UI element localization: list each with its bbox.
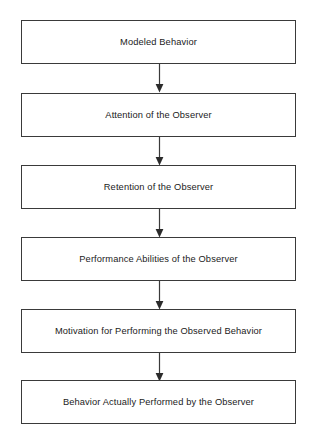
- flowchart-node-label: Behavior Actually Performed by the Obser…: [63, 397, 254, 408]
- flowchart-node-motivation: Motivation for Performing the Observed B…: [21, 309, 296, 353]
- down-arrow-icon: [153, 281, 166, 310]
- flowchart-node-label: Attention of the Observer: [105, 110, 211, 121]
- flowchart-node-performance-abilities: Performance Abilities of the Observer: [21, 237, 296, 281]
- flowchart-node-label: Modeled Behavior: [120, 37, 197, 48]
- flowchart-node-retention: Retention of the Observer: [21, 165, 296, 209]
- flowchart-diagram: Modeled Behavior Attention of the Observ…: [0, 0, 316, 435]
- down-arrow-icon: [153, 209, 166, 238]
- down-arrow-icon: [153, 137, 166, 166]
- flowchart-node-label: Performance Abilities of the Observer: [79, 254, 237, 265]
- flowchart-node-behavior-performed: Behavior Actually Performed by the Obser…: [21, 380, 296, 424]
- flowchart-node-label: Motivation for Performing the Observed B…: [55, 326, 262, 337]
- flowchart-node-attention: Attention of the Observer: [21, 93, 296, 137]
- flowchart-node-label: Retention of the Observer: [104, 182, 213, 193]
- down-arrow-icon: [153, 64, 166, 93]
- down-arrow-icon: [153, 353, 166, 382]
- flowchart-node-modeled-behavior: Modeled Behavior: [21, 20, 296, 64]
